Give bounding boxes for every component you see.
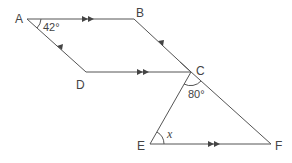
- point-label-a: A: [15, 12, 23, 26]
- double-arrow-dc-icon: [137, 69, 149, 75]
- angle-label-a: 42°: [43, 21, 60, 33]
- point-label-c: C: [196, 64, 205, 78]
- double-arrow-ef-icon: [208, 141, 220, 147]
- point-label-e: E: [137, 139, 145, 153]
- angle-arc-e: [157, 132, 164, 144]
- angle-arc-a: [37, 19, 41, 28]
- geometry-diagram: A B C D E F 42° 80° x: [0, 0, 292, 163]
- angle-label-e: x: [166, 127, 173, 141]
- angle-arc-c: [184, 81, 201, 86]
- arrow-cb-icon: [158, 40, 164, 46]
- point-label-b: B: [136, 6, 144, 20]
- point-label-f: F: [275, 139, 282, 153]
- segment-cf: [180, 62, 271, 144]
- angle-label-c: 80°: [188, 88, 205, 100]
- point-label-d: D: [76, 78, 85, 92]
- double-arrow-ab-icon: [82, 16, 94, 22]
